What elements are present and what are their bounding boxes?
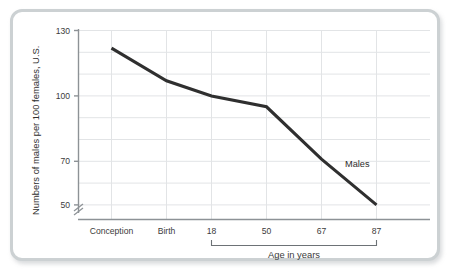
x-tick-label-50: 50 [262, 226, 272, 236]
data-line-males [112, 48, 377, 205]
chart-svg: 130 100 70 50 Numbers of males per 100 f… [0, 0, 456, 279]
y-axis-title: Numbers of males per 100 females, U.S. [30, 46, 41, 215]
x-tick-label-conception: Conception [90, 226, 134, 236]
age-range-bracket [212, 240, 377, 246]
y-tick-label-70: 70 [60, 156, 70, 166]
screenshot-root: 130 100 70 50 Numbers of males per 100 f… [0, 0, 456, 279]
x-tick-label-birth: Birth [158, 226, 176, 236]
y-tick-label-100: 100 [56, 91, 71, 101]
x-axis-title: Age in years [268, 249, 320, 260]
y-tick-label-50: 50 [60, 200, 70, 210]
x-tick-label-87: 87 [372, 226, 382, 236]
y-tick-label-130: 130 [56, 26, 71, 36]
x-tick-label-18: 18 [207, 226, 217, 236]
vertical-gridlines [112, 31, 377, 220]
x-tick-label-67: 67 [317, 226, 327, 236]
line-chart: 130 100 70 50 Numbers of males per 100 f… [0, 0, 456, 279]
horizontal-gridlines [78, 31, 430, 205]
series-label-males: Males [345, 159, 370, 169]
